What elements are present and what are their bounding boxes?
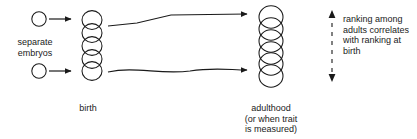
diagram-canvas: separate embryos birth adulthood (or whe…	[0, 0, 417, 139]
label-separate-embryos-line1: separate	[4, 37, 66, 48]
label-adulthood: adulthood (or when trait is measured)	[216, 103, 326, 135]
annotation-line2: adults correlates	[343, 25, 417, 36]
label-birth: birth	[58, 103, 118, 114]
label-adulthood-line2: (or when trait	[216, 114, 326, 125]
trajectory-lines	[108, 14, 247, 72]
trajectory-top	[108, 14, 247, 26]
label-adulthood-line3: is measured)	[216, 124, 326, 135]
birth-circle-4	[82, 50, 102, 69]
ranking-arrowhead-up	[329, 10, 336, 18]
birth-circle-stack	[82, 11, 102, 81]
embryo-circle-top	[32, 12, 46, 26]
label-adulthood-line1: adulthood	[216, 103, 326, 114]
adulthood-circle-3	[259, 30, 283, 52]
embryo-circle-bottom	[32, 64, 46, 78]
annotation-ranking-correlation: ranking among adults correlates with ran…	[343, 14, 417, 56]
ranking-arrowhead-down	[329, 74, 336, 82]
adulthood-circle-stack	[259, 6, 283, 87]
label-separate-embryos: separate embryos	[4, 37, 66, 58]
annotation-line4: birth	[343, 46, 417, 57]
label-separate-embryos-line2: embryos	[4, 48, 66, 59]
trajectory-bottom	[108, 69, 247, 72]
annotation-line3: with ranking at	[343, 35, 417, 46]
ranking-span-arrow	[329, 10, 336, 82]
birth-circle-5	[82, 62, 102, 81]
adulthood-circle-1	[259, 6, 283, 28]
adulthood-circle-6	[259, 65, 283, 87]
annotation-line1: ranking among	[343, 14, 417, 25]
adulthood-circle-2	[259, 18, 283, 40]
